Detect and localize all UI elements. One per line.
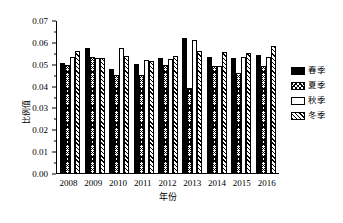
y-tick-label: 0.04	[32, 82, 48, 91]
legend-item-winter[interactable]: 冬季	[291, 108, 343, 123]
y-tick-label: 0.01	[32, 148, 48, 157]
y-tick-label: 0.06	[32, 38, 48, 47]
legend-item-label: 春季	[308, 66, 326, 75]
y-tick-label: 0.05	[32, 60, 48, 69]
plot-area	[56, 21, 279, 174]
y-tick-label: 0.07	[32, 17, 48, 26]
legend-item-label: 夏季	[308, 81, 326, 90]
legend-item-summer[interactable]: 夏季	[291, 78, 343, 93]
bar-winter-2008[interactable]	[75, 51, 80, 173]
y-tick-label: 0.03	[32, 104, 48, 113]
y-axis-ticks: 0.000.010.020.030.040.050.060.07	[0, 21, 56, 174]
legend-item-label: 冬季	[308, 111, 326, 120]
bar-winter-2009[interactable]	[100, 58, 105, 173]
x-tick-label-2008: 2008	[56, 174, 81, 190]
legend-item-label: 秋季	[308, 96, 326, 105]
y-tick-label: 0.00	[32, 170, 48, 179]
bar-winter-2013[interactable]	[197, 51, 202, 173]
bar-winter-2016[interactable]	[271, 46, 276, 173]
bar-group-2014	[205, 21, 229, 173]
x-tick-label-2014: 2014	[205, 174, 230, 190]
x-axis-label: 年份	[56, 190, 279, 203]
bar-winter-2010[interactable]	[124, 56, 129, 173]
x-tick-label-2016: 2016	[254, 174, 279, 190]
bar-group-2016	[254, 21, 278, 173]
legend-item-spring[interactable]: 春季	[291, 63, 343, 78]
bar-winter-2012[interactable]	[173, 56, 178, 173]
x-tick-label-2015: 2015	[229, 174, 254, 190]
chart-legend: 春季夏季秋季冬季	[291, 63, 343, 123]
bar-winter-2015[interactable]	[246, 53, 251, 173]
x-tick-label-2009: 2009	[81, 174, 106, 190]
legend-item-autumn[interactable]: 秋季	[291, 93, 343, 108]
x-tick-label-2012: 2012	[155, 174, 180, 190]
bar-group-2011	[131, 21, 155, 173]
bar-group-2015	[229, 21, 253, 173]
white-swatch	[291, 97, 305, 105]
bar-group-2010	[107, 21, 131, 173]
bar-chart-figure: 比例值 0.000.010.020.030.040.050.060.07 200…	[0, 0, 343, 223]
y-tick-label: 0.02	[32, 126, 48, 135]
x-axis-ticks: 200820092010201120122013201420152016	[56, 174, 279, 190]
cross-hatch-swatch	[291, 82, 305, 90]
bar-winter-2011[interactable]	[149, 61, 154, 173]
x-tick-label-2010: 2010	[106, 174, 131, 190]
bar-group-2013	[180, 21, 204, 173]
diagonal-hatch-swatch	[291, 112, 305, 120]
bar-group-2008	[58, 21, 82, 173]
bar-group-2009	[82, 21, 106, 173]
bars-layer	[57, 21, 279, 173]
bar-group-2012	[156, 21, 180, 173]
x-tick-label-2013: 2013	[180, 174, 205, 190]
x-tick-label-2011: 2011	[130, 174, 155, 190]
bar-winter-2014[interactable]	[222, 52, 227, 173]
solid-black-swatch	[291, 67, 305, 75]
